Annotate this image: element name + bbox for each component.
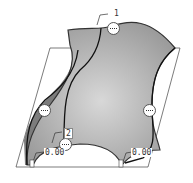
surface-viewport[interactable] [0, 0, 193, 183]
footing-right [119, 160, 123, 167]
leader-top [97, 14, 108, 25]
top-connection-marker[interactable] [107, 22, 120, 35]
right-connection-marker[interactable] [143, 104, 156, 117]
footing-left [30, 160, 34, 167]
right-value-label: 0.00 [131, 148, 152, 157]
left-connection-marker[interactable] [38, 104, 51, 117]
bottom-index-label: 2 [64, 128, 73, 139]
top-index-label: 1 [113, 9, 120, 18]
left-value-label: 0.00 [44, 148, 65, 157]
